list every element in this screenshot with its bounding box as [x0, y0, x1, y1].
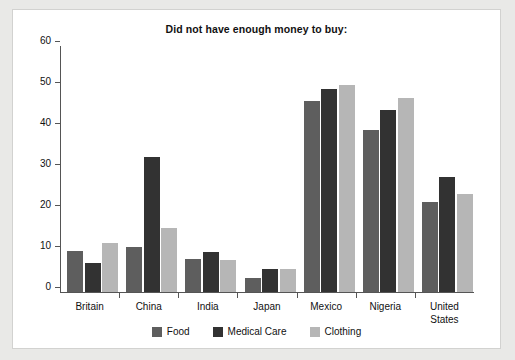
legend-swatch-icon	[310, 327, 320, 337]
x-axis-label: China	[119, 301, 178, 314]
legend-item[interactable]: Medical Care	[213, 326, 287, 337]
y-axis-tick-mark	[55, 123, 60, 124]
y-axis-tick-mark	[55, 82, 60, 83]
bar	[262, 269, 278, 292]
bar	[363, 130, 379, 292]
bar-group	[363, 46, 414, 292]
bar	[126, 247, 142, 292]
bar	[245, 278, 261, 292]
bar	[398, 98, 414, 292]
bar-group	[245, 46, 296, 292]
bar	[304, 101, 320, 292]
y-axis-tick: 50	[23, 76, 60, 88]
y-axis-tick-label: 0	[45, 281, 51, 293]
y-axis-tick: 0	[23, 281, 60, 293]
x-axis-tick-mark	[237, 293, 238, 298]
x-axis-label: UnitedStates	[415, 301, 474, 326]
bar	[185, 259, 201, 292]
y-axis-tick-mark	[55, 41, 60, 42]
bar	[203, 252, 219, 292]
x-axis-tick-mark	[297, 293, 298, 298]
y-axis-tick: 20	[23, 199, 60, 211]
legend-label: Food	[167, 326, 190, 337]
legend-swatch-icon	[213, 327, 223, 337]
bar	[144, 157, 160, 292]
bar	[220, 260, 236, 292]
x-axis-line	[60, 292, 474, 293]
bar	[161, 228, 177, 292]
bar	[280, 269, 296, 292]
x-axis-tick-mark	[119, 293, 120, 298]
bar	[67, 251, 83, 292]
bar	[439, 177, 455, 292]
y-axis-tick-label: 30	[40, 158, 51, 170]
y-axis-tick-label: 50	[40, 76, 51, 88]
bar	[102, 243, 118, 292]
bar-group	[304, 46, 355, 292]
chart-figure: Did not have enough money to buy: 010203…	[12, 9, 501, 349]
y-axis-tick-label: 40	[40, 117, 51, 129]
legend-label: Medical Care	[228, 326, 287, 337]
bar-group	[67, 46, 118, 292]
x-axis-label: Mexico	[297, 301, 356, 314]
y-axis-tick: 60	[23, 35, 60, 47]
x-axis-tick-mark	[356, 293, 357, 298]
y-axis-tick-label: 10	[40, 240, 51, 252]
y-axis-tick: 30	[23, 158, 60, 170]
y-axis-tick-mark	[55, 246, 60, 247]
x-axis-label: India	[178, 301, 237, 314]
bar-group	[185, 46, 236, 292]
legend-label: Clothing	[325, 326, 362, 337]
legend-item[interactable]: Food	[152, 326, 190, 337]
bar	[380, 110, 396, 292]
y-axis-line	[60, 46, 61, 293]
x-axis-label: Britain	[60, 301, 119, 314]
y-axis-tick: 40	[23, 117, 60, 129]
plot-area: 0102030405060	[60, 46, 474, 293]
y-axis-tick: 10	[23, 240, 60, 252]
x-axis-label: Nigeria	[356, 301, 415, 314]
legend-item[interactable]: Clothing	[310, 326, 362, 337]
bar-group	[422, 46, 473, 292]
bar	[457, 194, 473, 292]
y-axis-tick-mark	[55, 205, 60, 206]
y-axis-tick-mark	[55, 164, 60, 165]
x-axis-tick-mark	[415, 293, 416, 298]
y-axis-tick-mark	[55, 287, 60, 288]
y-axis-tick-label: 60	[40, 35, 51, 47]
bar-group	[126, 46, 177, 292]
x-axis-label: Japan	[237, 301, 296, 314]
bar	[339, 85, 355, 292]
bar	[321, 89, 337, 292]
chart-legend: FoodMedical CareClothing	[13, 326, 500, 337]
x-axis-tick-mark	[178, 293, 179, 298]
legend-swatch-icon	[152, 327, 162, 337]
chart-title: Did not have enough money to buy:	[13, 23, 500, 35]
bar	[422, 202, 438, 292]
bar	[85, 263, 101, 292]
y-axis-tick-label: 20	[40, 199, 51, 211]
